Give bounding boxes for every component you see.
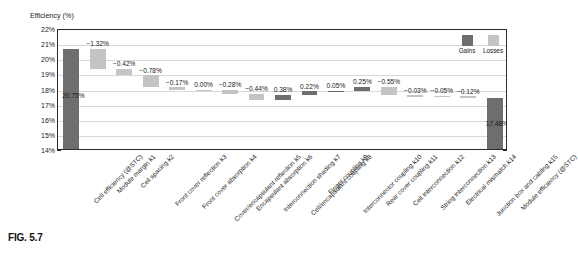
- waterfall-bar[interactable]: [63, 49, 79, 150]
- gridline: [58, 106, 506, 107]
- legend-swatch-gains: [462, 35, 473, 46]
- legend-swatch-losses: [488, 35, 499, 46]
- legend-label-gains: Gains: [455, 47, 479, 54]
- y-axis-tick-label: 19%: [41, 71, 55, 78]
- y-axis-tick-label: 16%: [41, 116, 55, 123]
- gridline: [58, 121, 506, 122]
- waterfall-bar[interactable]: [434, 96, 450, 98]
- plot-area: 20.75%−1.32%−0.42%−0.78%−0.17%0.00%−0.28…: [57, 29, 507, 150]
- x-axis-category-label: Encapsulant absorption k6: [254, 153, 313, 212]
- bar-value-label: −0.55%: [369, 78, 409, 85]
- waterfall-bar[interactable]: [354, 87, 370, 91]
- bar-value-label: −0.12%: [448, 88, 488, 95]
- waterfall-bar[interactable]: [407, 95, 423, 97]
- bar-value-label: −0.78%: [131, 67, 171, 74]
- waterfall-bar[interactable]: [196, 90, 212, 92]
- x-axis-category-label: Cell efficiency (@STC): [92, 153, 143, 204]
- chart-legend: Gains Losses: [455, 35, 507, 59]
- legend-label-losses: Losses: [481, 47, 505, 54]
- y-axis-tick-label: 18%: [41, 86, 55, 93]
- legend-item-gains: Gains: [455, 35, 479, 54]
- y-axis-tick-label: 21%: [41, 41, 55, 48]
- waterfall-bar[interactable]: [249, 94, 265, 101]
- bar-value-label: 20.75%: [62, 92, 80, 99]
- gridline: [58, 75, 506, 76]
- waterfall-bar[interactable]: [275, 95, 291, 101]
- bar-value-label: 17.48%: [486, 120, 504, 127]
- bar-value-label: −1.32%: [78, 40, 118, 47]
- x-axis-category-labels: Cell efficiency (@STC)Module margin k1Ce…: [0, 150, 521, 230]
- y-axis-title: Efficiency (%): [30, 11, 74, 20]
- waterfall-bar[interactable]: [328, 91, 344, 93]
- gridline: [58, 136, 506, 137]
- waterfall-bar[interactable]: [460, 96, 476, 98]
- legend-item-losses: Losses: [481, 35, 505, 54]
- y-axis-tick-label: 17%: [41, 101, 55, 108]
- x-axis-category-label: Front cover reflection k3: [173, 153, 227, 207]
- figure-caption: FIG. 5.7: [8, 232, 43, 243]
- y-axis-tick-labels: 22%21%20%19%18%17%16%15%14%: [30, 29, 55, 150]
- y-axis-tick-label: 22%: [41, 26, 55, 33]
- waterfall-bar[interactable]: [302, 91, 318, 94]
- y-axis-tick-label: 20%: [41, 56, 55, 63]
- y-axis-tick-label: 15%: [41, 131, 55, 138]
- gridline: [58, 45, 506, 46]
